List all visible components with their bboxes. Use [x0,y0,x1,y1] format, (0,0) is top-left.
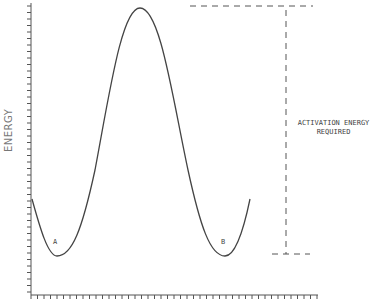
y-axis-label: ENERGY [3,109,14,152]
activation-energy-line1: ACTIVATION ENERGY [286,119,375,128]
activation-energy-line2: REQUIRED [286,128,375,137]
x-axis [31,295,318,299]
activation-energy-label: ACTIVATION ENERGY REQUIRED [286,119,375,137]
state-label-b: B [221,238,225,246]
y-axis [27,3,31,295]
energy-diagram [0,0,375,308]
state-label-a: A [53,238,57,246]
energy-curve [32,8,250,256]
